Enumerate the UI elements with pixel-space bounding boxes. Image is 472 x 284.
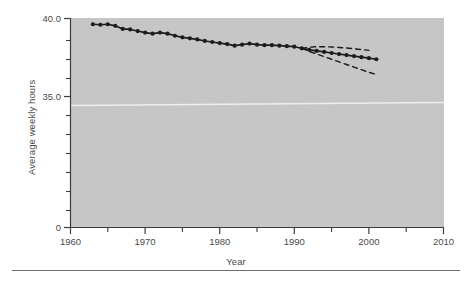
data-point-marker [337,52,341,56]
data-point-marker [262,43,266,47]
chart-figure: 40.0 35.0 0 1960 1970 1980 1990 2000 201… [0,0,472,284]
x-tick-label: 1960 [60,236,81,247]
data-point-marker [270,43,274,47]
data-point-marker [225,42,229,46]
data-point-marker [121,27,125,31]
x-tick-labels: 1960 1970 1980 1990 2000 2010 [60,236,454,247]
data-point-marker [158,31,162,35]
data-point-marker [150,32,154,36]
data-point-marker [330,51,334,55]
data-point-marker [218,41,222,45]
data-point-marker [173,34,177,38]
x-tick-label: 2010 [433,236,454,247]
data-point-marker [292,45,296,49]
data-point-marker [359,55,363,59]
data-point-marker [143,31,147,35]
x-tick-label: 2000 [358,236,379,247]
data-point-marker [255,43,259,47]
y-axis-title: Average weekly hours [26,80,37,175]
data-point-marker [277,44,281,48]
data-point-marker [195,37,199,41]
data-point-marker [240,43,244,47]
y-tick-label: 0 [56,222,61,233]
y-axis-major-ticks [64,19,70,228]
y-axis-minor-ticks [66,41,70,211]
data-point-marker [247,41,251,45]
y-tick-label: 35.0 [43,91,62,102]
data-point-marker [374,57,378,61]
plot-area-background [70,18,444,227]
data-point-marker [285,44,289,48]
x-tick-label: 1990 [284,236,305,247]
data-point-marker [128,27,132,31]
figure-bottom-rule [12,270,460,271]
data-point-marker [322,50,326,54]
data-point-marker [180,35,184,39]
chart-canvas: 40.0 35.0 0 1960 1970 1980 1990 2000 201… [0,0,472,284]
data-point-marker [233,44,237,48]
data-point-marker [98,23,102,27]
data-point-marker [210,40,214,44]
x-tick-label: 1970 [135,236,156,247]
data-point-marker [91,22,95,26]
data-point-marker [367,56,371,60]
data-point-marker [203,39,207,43]
data-point-marker [344,53,348,57]
x-tick-label: 1980 [209,236,230,247]
data-point-marker [188,36,192,40]
data-point-marker [113,24,117,28]
x-axis-minor-ticks [108,228,406,233]
data-point-marker [106,22,110,26]
y-tick-label: 40.0 [43,13,62,24]
data-point-marker [136,29,140,33]
data-point-marker [315,49,319,53]
x-axis-title: Year [0,256,472,267]
data-point-marker [165,32,169,36]
y-tick-labels: 40.0 35.0 0 [43,13,62,233]
data-point-marker [352,54,356,58]
